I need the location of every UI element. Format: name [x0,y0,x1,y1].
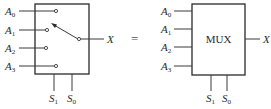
switch-model: A0 A1 A2 A3 X S1 S0 [4,4,115,106]
pivot-contact [77,37,80,40]
mux-block-model: MUX A0 A1 A2 A3 X S1 S0 [160,4,271,106]
mux-label-x: X [262,33,271,45]
mux-label: MUX [206,33,232,45]
label-a1: A1 [4,24,16,38]
contact-a0 [54,9,57,12]
mux-label-a0: A0 [160,5,172,19]
contact-a2 [44,46,47,49]
label-a3: A3 [4,60,16,74]
mux-equivalence-diagram: A0 A1 A2 A3 X S1 S0 = MUX A0 A1 A2 A3 X … [0,0,271,109]
contact-a3 [54,64,57,67]
mux-label-s1: S1 [206,92,216,106]
label-a0: A0 [4,5,16,19]
label-s1: S1 [49,92,59,106]
equals-sign: = [131,31,138,46]
mux-label-s0: S0 [222,92,232,106]
label-s0: S0 [67,92,77,106]
mux-label-a2: A2 [160,41,172,55]
contact-a1 [45,28,48,31]
mux-label-a3: A3 [160,60,172,74]
mux-label-a1: A1 [160,23,172,37]
label-x: X [106,33,115,45]
label-a2: A2 [4,42,16,56]
